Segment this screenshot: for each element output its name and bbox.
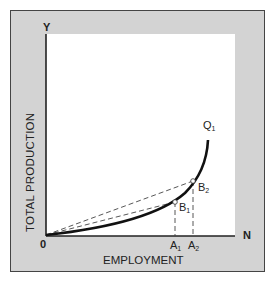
x-axis-title: EMPLOYMENT [103,255,184,267]
tick-label-a1: A1 [170,240,181,252]
y-axis-title: TOTAL PRODUCTION [24,113,36,232]
point-label-b2: B2 [198,182,209,194]
ray-to-b2 [46,181,193,235]
y-axis-letter: Y [43,22,50,33]
production-curve [46,140,208,235]
point-b2 [191,179,196,184]
ray-to-b1 [46,202,175,235]
point-b1 [173,200,178,205]
tick-label-a2: A2 [188,240,199,252]
x-axis-letter: N [243,230,251,241]
point-label-b1: B1 [179,202,190,214]
origin-label: 0 [40,239,46,250]
curve-label-q1: Q1 [203,120,215,132]
